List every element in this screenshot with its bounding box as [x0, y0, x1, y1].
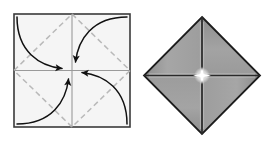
origami-figure: Origami fold step: four corners folded t…	[0, 0, 262, 141]
origami-diagram-canvas	[0, 0, 262, 141]
panel-square-before	[14, 14, 130, 127]
panel-diamond-after	[144, 17, 260, 134]
